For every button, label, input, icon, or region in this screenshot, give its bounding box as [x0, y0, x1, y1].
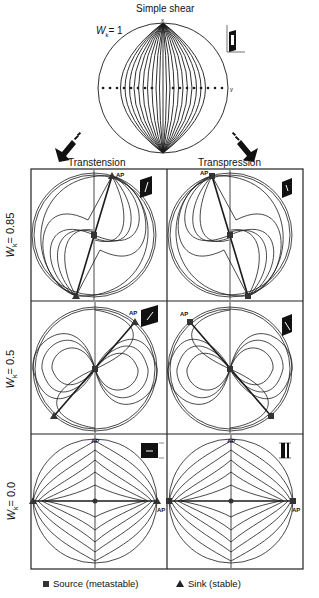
row-label-05: Wk= 0.5	[4, 348, 18, 390]
ap-label: AP	[91, 438, 99, 444]
wk-value: = 1	[108, 25, 122, 36]
source-marker	[166, 498, 172, 504]
source-marker	[245, 293, 251, 299]
wk-value: = 0.5	[4, 350, 16, 375]
legend-source-label: Source (metastable)	[53, 578, 139, 589]
top-wk-label: Wk= 1	[96, 25, 123, 38]
ap-label: AP	[157, 507, 165, 513]
block-icon	[282, 178, 292, 198]
source-marker	[93, 499, 98, 504]
transpression-label: Transpression	[198, 157, 261, 168]
sink-marker	[229, 499, 234, 504]
block-icon	[140, 176, 152, 198]
top-title: Simple shear	[136, 3, 194, 14]
sink-triangle-icon	[176, 580, 184, 587]
block-icon	[282, 314, 292, 336]
ap-label: AP	[227, 438, 235, 444]
axis-x-label: x	[161, 17, 164, 23]
ap-label: AP	[200, 170, 208, 176]
wk-subscript: k	[12, 507, 19, 511]
wk-subscript: k	[11, 244, 18, 248]
ap-label: AP	[292, 507, 300, 513]
block-icon	[141, 305, 158, 327]
flow-diagram: AP AP	[0, 0, 319, 598]
legend-sink-label: Sink (stable)	[188, 578, 241, 589]
source-marker	[227, 366, 233, 372]
block-icon	[279, 443, 291, 458]
source-marker	[268, 413, 274, 419]
wk-symbol: W	[4, 378, 16, 388]
source-marker	[92, 366, 98, 372]
legend-source: Source (metastable)	[43, 578, 139, 589]
ap-label: AP	[116, 172, 124, 178]
transtension-label: Transtension	[68, 157, 125, 168]
wk-value: = 0.0	[5, 482, 17, 507]
wk-subscript: k	[11, 375, 18, 379]
source-marker	[290, 498, 296, 504]
wk-symbol: W	[5, 510, 17, 520]
source-marker	[187, 319, 193, 325]
source-marker	[209, 173, 215, 179]
block-icon-top	[227, 25, 245, 52]
axis-y-label: y	[230, 86, 233, 92]
block-icon	[141, 443, 164, 458]
wk-value: = 0.85	[4, 213, 16, 244]
row-label-085: Wk= 0.85	[4, 210, 18, 260]
row-label-00: Wk= 0.0	[5, 479, 19, 523]
source-square-icon	[43, 581, 49, 587]
wk-symbol: W	[4, 247, 16, 257]
ap-label: AP	[129, 310, 137, 316]
legend-sink: Sink (stable)	[176, 578, 241, 589]
ap-label: AP	[180, 311, 188, 317]
source-marker	[91, 232, 97, 238]
source-marker	[227, 232, 233, 238]
